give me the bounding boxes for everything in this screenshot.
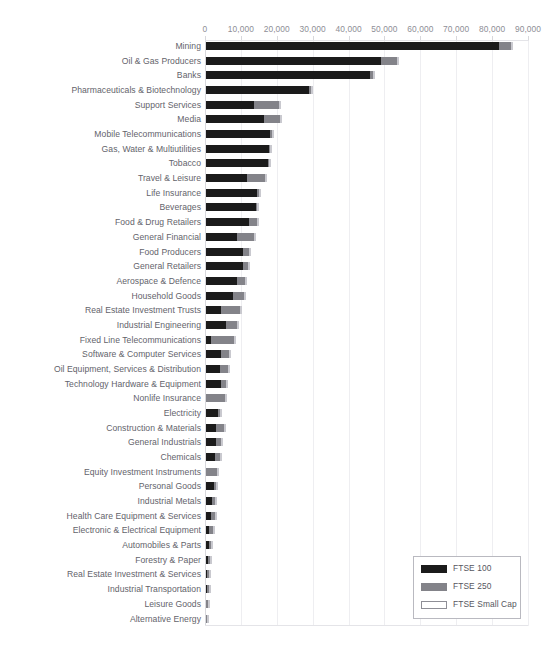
bar-row — [206, 71, 375, 79]
bar-segment-ssc — [397, 57, 399, 65]
bar-segment-ssc — [279, 101, 281, 109]
y-axis-category-label: Food & Drug Retailers — [0, 217, 201, 227]
bar-segment-s100 — [206, 292, 233, 300]
x-axis-tick — [277, 36, 278, 40]
bar-row — [206, 336, 236, 344]
bar-segment-s100 — [206, 159, 268, 167]
bar-segment-s100 — [206, 248, 243, 256]
x-axis-tick — [205, 36, 206, 40]
bar-segment-ssc — [225, 394, 227, 402]
bar-chart: 010,00020,00030,00040,00050,00060,00070,… — [0, 0, 557, 647]
bar-row — [206, 292, 246, 300]
legend-swatch-icon — [421, 583, 447, 591]
bar-segment-ssc — [259, 189, 261, 197]
bar-segment-ssc — [240, 306, 242, 314]
bar-segment-s100 — [206, 86, 309, 94]
y-axis-category-label: General Financial — [0, 232, 201, 242]
bar-segment-s250 — [233, 292, 243, 300]
bar-row — [206, 115, 282, 123]
y-axis-category-label: Travel & Leisure — [0, 173, 201, 183]
legend-swatch-icon — [421, 601, 447, 609]
x-axis-tick-labels: 010,00020,00030,00040,00050,00060,00070,… — [0, 24, 557, 38]
y-axis-category-label: Chemicals — [0, 452, 201, 462]
bar-segment-s100 — [206, 438, 216, 446]
bar-segment-s100 — [206, 380, 221, 388]
y-axis-category-label: Construction & Materials — [0, 423, 201, 433]
bar-row — [206, 482, 218, 490]
y-axis-category-label: Software & Computer Services — [0, 349, 201, 359]
bar-segment-ssc — [244, 292, 246, 300]
bar-row — [206, 350, 231, 358]
legend-label: FTSE 250 — [453, 581, 492, 591]
bar-segment-ssc — [210, 556, 212, 564]
bar-segment-s100 — [206, 424, 216, 432]
bar-row — [206, 556, 212, 564]
legend-item[interactable]: FTSE 250 — [421, 580, 517, 594]
bar-segment-ssc — [229, 350, 231, 358]
bar-segment-s100 — [206, 482, 214, 490]
x-axis-tick — [241, 36, 242, 40]
bar-row — [206, 424, 226, 432]
legend-label: FTSE Small Cap — [453, 599, 517, 609]
y-axis-category-label: Industrial Transportation — [0, 584, 201, 594]
clipped-title — [150, 0, 530, 4]
bar-row — [206, 600, 210, 608]
y-axis-category-label: Real Estate Investment & Services — [0, 569, 201, 579]
y-axis-category-label: Technology Hardware & Equipment — [0, 379, 201, 389]
y-axis-category-label: Forestry & Paper — [0, 555, 201, 565]
bar-segment-s250 — [206, 394, 225, 402]
y-axis-category-label: Nonlife Insurance — [0, 393, 201, 403]
bar-row — [206, 130, 274, 138]
y-axis-category-label: Tobacco — [0, 158, 201, 168]
bar-row — [206, 42, 513, 50]
bar-row — [206, 585, 211, 593]
bar-segment-ssc — [217, 468, 219, 476]
legend-item[interactable]: FTSE Small Cap — [421, 598, 517, 612]
bar-segment-s250 — [221, 350, 229, 358]
y-axis-category-label: Fixed Line Telecommunications — [0, 335, 201, 345]
bar-segment-s250 — [220, 365, 228, 373]
y-axis-category-label: Electronic & Electrical Equipment — [0, 525, 201, 535]
bar-segment-s100 — [206, 453, 215, 461]
bar-segment-ssc — [373, 71, 375, 79]
bar-segment-ssc — [226, 380, 228, 388]
bar-segment-ssc — [213, 526, 215, 534]
bar-row — [206, 174, 267, 182]
bar-segment-s250 — [381, 57, 396, 65]
bar-segment-ssc — [270, 145, 272, 153]
bar-segment-ssc — [220, 453, 222, 461]
bar-row — [206, 321, 239, 329]
bar-segment-s250 — [499, 42, 511, 50]
bar-row — [206, 541, 213, 549]
bar-segment-ssc — [228, 365, 230, 373]
bar-row — [206, 233, 256, 241]
legend-item[interactable]: FTSE 100 — [421, 562, 517, 576]
legend-swatch-icon — [421, 565, 447, 573]
bar-row — [206, 101, 281, 109]
bar-segment-ssc — [208, 600, 210, 608]
bar-row — [206, 203, 259, 211]
bar-row — [206, 277, 247, 285]
bar-segment-s250 — [247, 174, 266, 182]
x-axis-line — [205, 625, 528, 626]
bar-segment-s100 — [206, 409, 218, 417]
bar-row — [206, 262, 250, 270]
bar-segment-ssc — [248, 262, 250, 270]
x-axis-tick-label: 0 — [203, 24, 208, 34]
bar-row — [206, 218, 259, 226]
bar-segment-s100 — [206, 321, 226, 329]
bar-segment-ssc — [216, 482, 218, 490]
bar-segment-ssc — [254, 233, 256, 241]
y-axis-category-label: Leisure Goods — [0, 599, 201, 609]
bar-segment-s250 — [206, 468, 217, 476]
bar-segment-s100 — [206, 174, 247, 182]
bar-row — [206, 526, 215, 534]
legend-label: FTSE 100 — [453, 563, 492, 573]
y-axis-category-label: Media — [0, 114, 201, 124]
bar-row — [206, 380, 228, 388]
y-axis-category-label: Personal Goods — [0, 481, 201, 491]
x-axis-tick-label: 40,000 — [335, 24, 361, 34]
bar-row — [206, 394, 227, 402]
x-axis-tick — [420, 36, 421, 40]
bar-segment-s100 — [206, 262, 243, 270]
